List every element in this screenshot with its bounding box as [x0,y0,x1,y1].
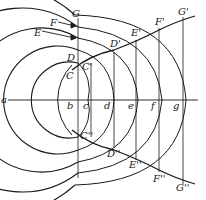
label-G: G [72,8,80,19]
label-E-prime: E' [130,27,141,38]
label-c: c [83,100,89,111]
geometric-diagram: a b c d e f g C D E F G C' D' E' F' G' C… [0,0,206,200]
label-E: E [33,27,42,38]
label-g: g [173,100,179,111]
label-e: e [128,100,134,111]
label-d: d [104,100,110,111]
label-G-prime: G' [178,6,189,17]
label-F-double-prime: F'' [152,173,165,184]
label-D: D [66,52,75,63]
label-b: b [67,100,73,111]
label-C: C [66,70,74,81]
pointer-arrows [42,22,76,40]
label-C-double-prime: C'' [80,130,93,141]
label-C-prime: C' [82,61,92,72]
diagram-canvas: a b c d e f g C D E F G C' D' E' F' G' C… [0,0,206,200]
label-G-double-prime: G'' [176,182,190,193]
label-D-prime: D' [109,38,121,49]
label-D-double-prime: D'' [106,148,121,159]
label-E-double-prime: E'' [128,159,142,170]
label-a: a [1,94,7,105]
label-F-prime: F' [154,16,165,27]
label-F: F [49,17,58,28]
label-f: f [150,100,157,111]
